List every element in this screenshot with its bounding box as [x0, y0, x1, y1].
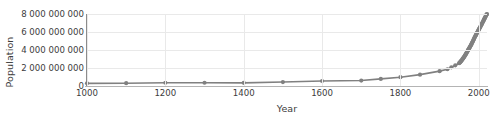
y-axis-tick-labels: 02 000 000 0004 000 000 0006 000 000 000…	[0, 0, 84, 124]
x-tick-label: 1000	[76, 89, 98, 98]
y-tick-label: 2 000 000 000	[0, 64, 84, 73]
data-point-marker	[202, 81, 206, 85]
gridline-vertical	[244, 14, 245, 86]
x-tick-label: 1600	[311, 89, 333, 98]
y-tick-label: 0	[0, 82, 84, 91]
gridline-vertical	[479, 14, 480, 86]
x-tick-label: 1800	[389, 89, 411, 98]
data-point-marker	[281, 80, 285, 84]
gridline-horizontal	[87, 50, 487, 51]
gridline-vertical	[87, 14, 88, 86]
gridline-vertical	[322, 14, 323, 86]
y-tick-label: 8 000 000 000	[0, 10, 84, 19]
gridline-vertical	[400, 14, 401, 86]
gridline-vertical	[165, 14, 166, 86]
data-point-marker	[379, 77, 383, 81]
x-tick-label: 2000	[468, 89, 490, 98]
data-point-marker	[453, 63, 457, 67]
x-axis-title: Year	[87, 103, 487, 114]
x-axis-spine	[85, 86, 488, 87]
series-line	[87, 14, 487, 83]
plot-area	[87, 14, 487, 86]
y-tick-label: 6 000 000 000	[0, 28, 84, 37]
population-line-chart: Population 02 000 000 0004 000 000 0006 …	[0, 0, 499, 124]
data-point-marker	[438, 69, 442, 73]
gridline-horizontal	[87, 68, 487, 69]
data-point-marker	[124, 81, 128, 85]
data-point-marker	[359, 78, 363, 82]
gridline-horizontal	[87, 32, 487, 33]
x-tick-label: 1200	[154, 89, 176, 98]
gridline-horizontal	[87, 14, 487, 15]
data-point-marker	[418, 73, 422, 77]
x-tick-label: 1400	[233, 89, 255, 98]
y-tick-label: 4 000 000 000	[0, 46, 84, 55]
